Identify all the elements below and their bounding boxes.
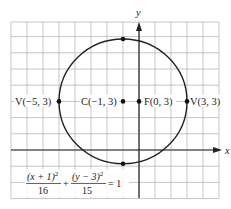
focus-label: F(0, 3) — [144, 96, 173, 108]
center-label: C(−1, 3) — [81, 96, 117, 108]
center-point — [121, 99, 126, 104]
vertex-left-point — [57, 99, 62, 104]
svg-text:(x + 1)2: (x + 1)2 — [27, 170, 59, 183]
x-axis-label: x — [224, 145, 230, 156]
vertex-right-point — [185, 99, 190, 104]
svg-text:+: + — [63, 178, 69, 189]
vertex-right-label: V(3, 3) — [190, 96, 221, 108]
y-axis-label: y — [135, 7, 141, 18]
ellipse-graph: x y V(−5, 3) C(−1, 3) F(0, 3) V(3, 3) (x… — [0, 0, 231, 209]
x-axis-arrow-icon — [213, 147, 222, 153]
covertex-bottom-point — [121, 162, 126, 167]
svg-text:15: 15 — [82, 185, 92, 196]
svg-text:(y − 3)2: (y − 3)2 — [72, 170, 104, 183]
svg-text:16: 16 — [38, 185, 48, 196]
y-axis-arrow-icon — [136, 22, 142, 31]
covertex-top-point — [121, 37, 126, 42]
ellipse-equation: (x + 1)2 16 + (y − 3)2 15 = 1 — [25, 169, 129, 197]
vertex-left-label: V(−5, 3) — [15, 96, 52, 108]
svg-text:= 1: = 1 — [108, 178, 121, 189]
focus-point — [137, 99, 142, 104]
